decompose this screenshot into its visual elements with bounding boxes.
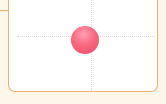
ball[interactable]	[71, 26, 99, 54]
game-board[interactable]	[8, 0, 158, 92]
